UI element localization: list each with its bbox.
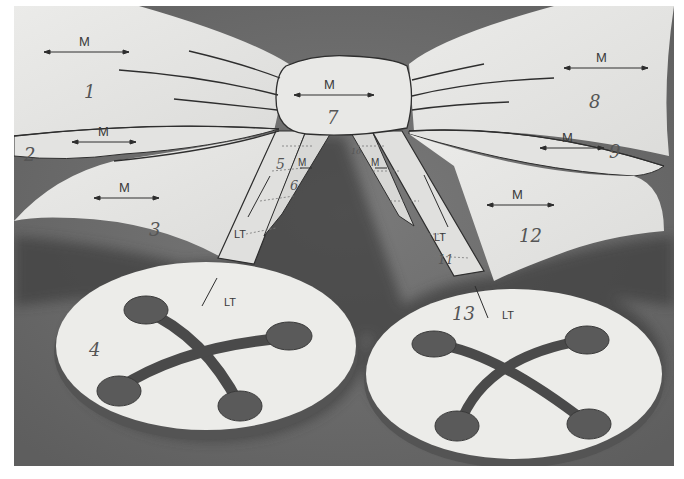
- svg-text:LT: LT: [434, 231, 446, 243]
- svg-text:M: M: [119, 180, 130, 195]
- svg-text:M: M: [562, 130, 573, 145]
- svg-text:M: M: [512, 187, 523, 202]
- svg-text:10: 10: [351, 147, 361, 156]
- svg-text:M: M: [79, 34, 90, 49]
- bow-pattern-photo: M M M LT LT M M M M M LT M LT 1 2 3 4 5 …: [14, 6, 674, 466]
- svg-text:6: 6: [290, 178, 298, 193]
- svg-text:7: 7: [327, 107, 339, 128]
- svg-text:11: 11: [438, 253, 453, 267]
- svg-text:M: M: [298, 157, 306, 168]
- svg-text:M: M: [596, 50, 607, 65]
- svg-text:M: M: [324, 77, 335, 92]
- svg-text:2: 2: [23, 144, 35, 165]
- svg-text:1: 1: [84, 81, 95, 102]
- svg-text:LT: LT: [224, 296, 236, 308]
- svg-text:M: M: [98, 124, 109, 139]
- svg-text:8: 8: [589, 91, 600, 112]
- svg-text:M: M: [371, 157, 379, 168]
- svg-text:5: 5: [276, 156, 285, 172]
- svg-text:13: 13: [452, 303, 475, 324]
- svg-text:LT: LT: [502, 309, 514, 321]
- svg-text:12: 12: [519, 225, 542, 246]
- svg-text:3: 3: [149, 219, 160, 240]
- svg-text:LT: LT: [234, 228, 246, 240]
- svg-text:9: 9: [609, 141, 620, 162]
- bow-pattern-illustration: M M M LT LT M M M M M LT M LT 1 2 3 4 5 …: [14, 6, 674, 466]
- svg-text:4: 4: [88, 339, 100, 360]
